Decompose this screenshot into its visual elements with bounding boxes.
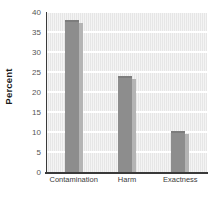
y-tick-label: 0 [37, 168, 41, 177]
bar-top-edge [118, 76, 132, 78]
y-axis-title: Percent [0, 0, 16, 172]
y-axis-tick-labels: 0510152025303540 [16, 0, 44, 172]
y-axis-title-label: Percent [3, 68, 14, 104]
y-tick-label: 10 [32, 128, 41, 137]
bar [65, 20, 83, 172]
y-axis-line [46, 12, 48, 173]
y-tick-label: 40 [32, 8, 41, 17]
y-tick-label: 20 [32, 88, 41, 97]
bar-body [171, 131, 185, 172]
x-axis-tick-labels: ContaminationHarmExactness [47, 175, 207, 191]
x-tick-label: Contamination [49, 175, 97, 184]
plot-area [47, 12, 207, 172]
gridline [47, 12, 207, 13]
bar-top-edge [65, 20, 79, 22]
bar-body [65, 20, 79, 172]
bar-top-edge [171, 131, 185, 133]
y-tick-label: 25 [32, 68, 41, 77]
x-tick-label: Exactness [163, 175, 198, 184]
y-tick-label: 5 [37, 148, 41, 157]
y-tick-label: 35 [32, 28, 41, 37]
bar [171, 131, 189, 172]
bar [118, 76, 136, 172]
x-axis-line [45, 172, 208, 174]
x-tick-label: Harm [118, 175, 136, 184]
y-tick-label: 30 [32, 48, 41, 57]
bar-body [118, 76, 132, 172]
y-tick-label: 15 [32, 108, 41, 117]
bar-chart: Percent 0510152025303540 ContaminationHa… [0, 0, 215, 200]
